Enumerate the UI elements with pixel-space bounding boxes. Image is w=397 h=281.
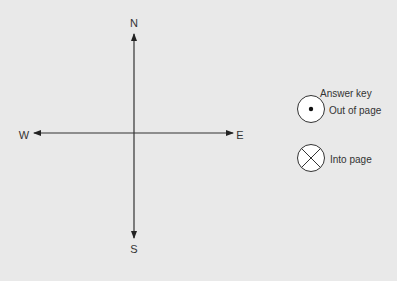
south-label: S xyxy=(130,244,137,255)
west-label: W xyxy=(19,130,29,141)
answer-key-item-out-of-page: Out of page xyxy=(329,105,381,116)
east-label: E xyxy=(236,130,243,141)
north-label: N xyxy=(130,18,138,29)
compass-diagram: N S W E Answer key Out of page Into page xyxy=(0,0,397,281)
x-in-circle-icon xyxy=(298,145,325,172)
compass-axes xyxy=(0,0,397,281)
answer-key-item-into-page: Into page xyxy=(330,154,372,165)
answer-key-title: Answer key xyxy=(320,88,372,99)
dot-in-circle-icon xyxy=(298,96,325,123)
